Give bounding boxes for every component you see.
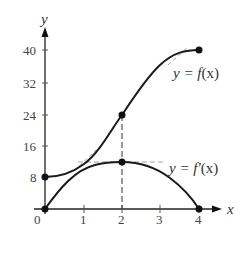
x-tick-label-3: 3 — [156, 212, 163, 227]
x-tick-label-4: 4 — [195, 212, 202, 227]
point-f-4 — [196, 47, 203, 54]
function-graph: y x 8 16 24 32 40 0 1 2 3 4 y = f(x) — [0, 0, 248, 254]
y-tick-label-32: 32 — [23, 76, 36, 91]
y-tick-label-8: 8 — [30, 170, 37, 185]
point-f-2 — [119, 112, 126, 119]
x-axis-arrow-icon — [212, 206, 222, 213]
y-tick-label-24: 24 — [23, 108, 37, 123]
y-axis-arrow-icon — [42, 27, 49, 37]
point-f-0 — [42, 174, 49, 181]
x-tick-label-2: 2 — [118, 212, 125, 227]
point-fprime-2 — [119, 159, 126, 166]
point-fprime-0 — [42, 206, 49, 213]
fprime-curve-label: y = f′(x) — [167, 160, 218, 177]
x-axis-label: x — [226, 201, 234, 217]
y-tick-label-16: 16 — [23, 139, 37, 154]
y-tick-label-40: 40 — [23, 43, 36, 58]
f-curve-label: y = f(x) — [171, 65, 219, 82]
x-tick-label-1: 1 — [80, 212, 87, 227]
origin-label: 0 — [34, 212, 41, 227]
point-fprime-4 — [196, 206, 203, 213]
y-axis-label: y — [39, 11, 48, 27]
